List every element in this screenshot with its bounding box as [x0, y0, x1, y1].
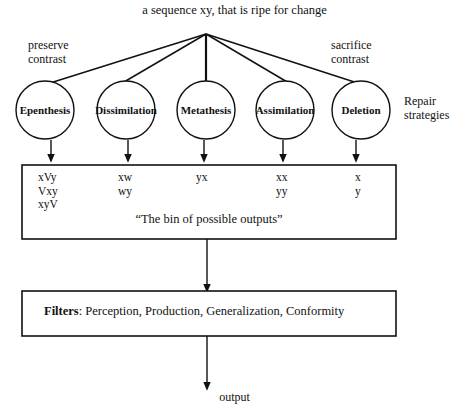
preserve-contrast-annotation: preserve contrast	[28, 39, 69, 67]
circle-label-dissimilation: Dissimilation	[95, 104, 157, 116]
filters-heading: Filters	[44, 304, 79, 318]
bin-output-item: yx	[196, 171, 208, 185]
bin-output-item: yy	[276, 185, 288, 199]
bin-output-item: Vxy	[38, 185, 58, 199]
bin-output-item: xw	[118, 171, 132, 185]
diagram-canvas	[0, 0, 469, 420]
bin-caption: “The bin of possible outputs”	[22, 212, 396, 226]
bin-column-3: yx	[196, 171, 208, 185]
circle-label-deletion: Deletion	[341, 104, 380, 116]
flowchart-diagram: a sequence xy, that is ripe for change p…	[0, 0, 469, 420]
sacrifice-contrast-annotation: sacrifice contrast	[331, 39, 372, 67]
repair-strategies-side-label: Repair strategies	[404, 95, 449, 123]
circle-label-metathesis: Metathesis	[181, 104, 232, 116]
bin-column-4: xx yy	[276, 171, 288, 198]
sacrifice-contrast-line2: contrast	[331, 53, 372, 67]
filters-text: Filters: Perception, Production, General…	[44, 304, 344, 318]
filters-items: Perception, Production, Generalization, …	[85, 304, 344, 318]
bin-output-item: wy	[118, 185, 132, 199]
page-title: a sequence xy, that is ripe for change	[0, 3, 469, 17]
bin-output-item: y	[355, 185, 361, 199]
sacrifice-contrast-line1: sacrifice	[331, 39, 372, 53]
output-label: output	[0, 391, 469, 405]
bin-output-item: x	[355, 171, 361, 185]
circle-to-bin-arrows-group	[51, 140, 356, 158]
bin-box	[22, 165, 396, 239]
bin-output-item: xyV	[38, 198, 58, 212]
preserve-contrast-line2: contrast	[28, 53, 69, 67]
circle-label-epenthesis: Epenthesis	[20, 104, 71, 116]
bin-output-item: xx	[276, 171, 288, 185]
bin-output-item: xVy	[38, 171, 58, 185]
preserve-contrast-line1: preserve	[28, 39, 69, 53]
repair-strategies-line2: strategies	[404, 109, 449, 123]
circle-label-assimilation: Assimilation	[256, 104, 315, 116]
bin-column-1: xVy Vxy xyV	[38, 171, 58, 212]
bin-column-5: x y	[355, 171, 361, 198]
repair-strategies-line1: Repair	[404, 95, 449, 109]
bin-column-2: xw wy	[118, 171, 132, 198]
